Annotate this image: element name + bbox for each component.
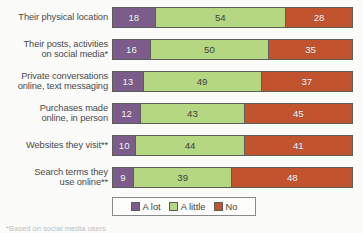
row-label: Search terms they use online** <box>0 167 112 188</box>
chart-footnote: *Based on social media users <box>6 224 106 233</box>
segment-a-lot: 13 <box>112 71 144 92</box>
stacked-bar: 18 54 28 <box>112 7 355 28</box>
stacked-bar: 10 44 41 <box>112 135 355 156</box>
row-label: Their physical location <box>0 12 112 22</box>
segment-a-lot: 10 <box>112 135 136 156</box>
legend-item-a-little: A little <box>169 202 206 212</box>
segment-no: 37 <box>261 71 353 92</box>
segment-a-little: 54 <box>155 7 286 28</box>
segment-no: 48 <box>231 167 353 188</box>
chart-row: Their posts, activities on social media*… <box>0 37 363 61</box>
legend-swatch-icon <box>214 202 223 211</box>
stacked-bar: 12 43 45 <box>112 103 355 124</box>
legend-item-no: No <box>214 202 238 212</box>
chart-row: Their physical location 18 54 28 <box>0 5 363 29</box>
chart-row: Search terms they use online** 9 39 48 <box>0 165 363 189</box>
legend-label: A lot <box>143 202 161 212</box>
row-label: Their posts, activities on social media* <box>0 39 112 60</box>
row-label: Private conversations online, text messa… <box>0 71 112 92</box>
segment-a-little: 43 <box>140 103 244 124</box>
chart-row: Purchases made online, in person 12 43 4… <box>0 101 363 125</box>
chart-row: Websites they visit** 10 44 41 <box>0 133 363 157</box>
segment-a-lot: 9 <box>112 167 134 188</box>
stacked-bar: 13 49 37 <box>112 71 355 92</box>
segment-a-lot: 12 <box>112 103 141 124</box>
segment-a-little: 50 <box>150 39 269 60</box>
stacked-bar: 16 50 35 <box>112 39 355 60</box>
segment-a-little: 49 <box>143 71 262 92</box>
segment-no: 28 <box>285 7 353 28</box>
legend-swatch-icon <box>131 202 140 211</box>
segment-a-lot: 16 <box>112 39 151 60</box>
segment-a-little: 44 <box>135 135 244 156</box>
segment-no: 45 <box>244 103 353 124</box>
row-label: Websites they visit** <box>0 140 112 150</box>
chart-legend: A lot A little No <box>112 197 256 216</box>
legend-swatch-icon <box>169 202 178 211</box>
legend-label: No <box>226 202 238 212</box>
segment-a-little: 39 <box>133 167 233 188</box>
legend-label: A little <box>181 202 206 212</box>
stacked-bar: 9 39 48 <box>112 167 355 188</box>
row-label: Purchases made online, in person <box>0 103 112 124</box>
segment-no: 41 <box>244 135 353 156</box>
legend-item-a-lot: A lot <box>131 202 161 212</box>
segment-no: 35 <box>268 39 353 60</box>
segment-a-lot: 18 <box>112 7 156 28</box>
chart-row: Private conversations online, text messa… <box>0 69 363 93</box>
